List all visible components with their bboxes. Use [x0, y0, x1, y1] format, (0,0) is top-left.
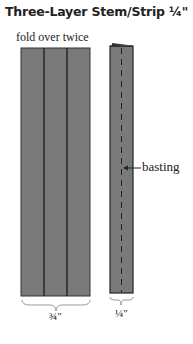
left-width-label: ¾" [49, 310, 62, 322]
unfolded-strip [21, 48, 90, 296]
right-brace [110, 297, 133, 305]
right-width-label: ¼" [115, 307, 128, 319]
basting-label: basting [142, 159, 180, 175]
